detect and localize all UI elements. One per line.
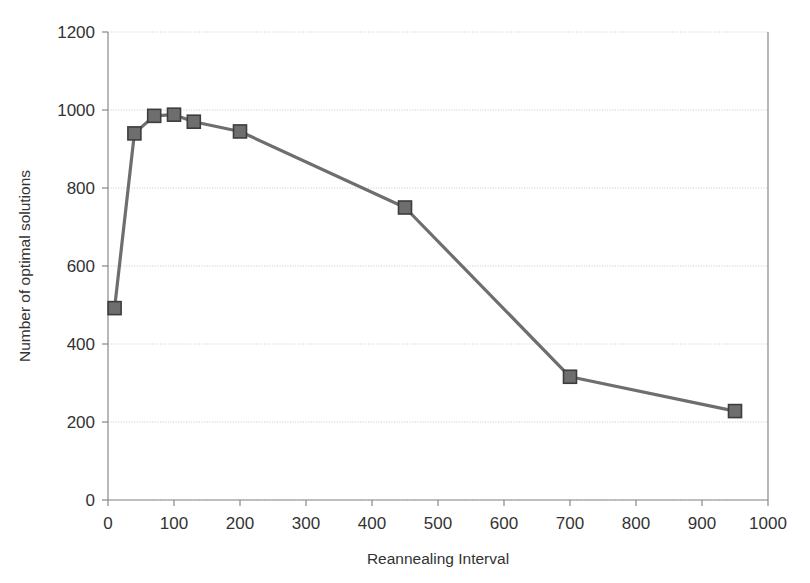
x-tick-label: 400 (358, 514, 386, 533)
x-tick-label: 0 (103, 514, 112, 533)
x-tick-label: 900 (688, 514, 716, 533)
x-axis-title: Reannealing Interval (367, 550, 509, 567)
x-tick-label: 500 (424, 514, 452, 533)
x-tick-label: 300 (292, 514, 320, 533)
data-point-marker (128, 127, 141, 140)
chart-background (0, 0, 810, 583)
y-tick-label: 800 (67, 179, 95, 198)
x-tick-label: 1000 (749, 514, 787, 533)
data-point-marker (399, 201, 412, 214)
data-point-marker (168, 108, 181, 121)
y-axis-title: Number of optimal solutions (16, 170, 33, 362)
y-tick-label: 0 (86, 491, 95, 510)
x-tick-label: 100 (160, 514, 188, 533)
y-tick-label: 200 (67, 413, 95, 432)
data-point-marker (108, 302, 121, 315)
x-tick-label: 700 (556, 514, 584, 533)
data-point-marker (148, 109, 161, 122)
y-tick-label: 1200 (57, 23, 95, 42)
data-point-marker (729, 405, 742, 418)
y-tick-label: 1000 (57, 101, 95, 120)
chart-figure: 0200400600800100012000100200300400500600… (0, 0, 810, 583)
data-point-marker (564, 370, 577, 383)
data-point-marker (234, 125, 247, 138)
chart-canvas: 0200400600800100012000100200300400500600… (0, 0, 810, 583)
x-tick-label: 200 (226, 514, 254, 533)
x-tick-label: 600 (490, 514, 518, 533)
x-tick-label: 800 (622, 514, 650, 533)
y-tick-label: 400 (67, 335, 95, 354)
y-tick-label: 600 (67, 257, 95, 276)
data-point-marker (187, 115, 200, 128)
